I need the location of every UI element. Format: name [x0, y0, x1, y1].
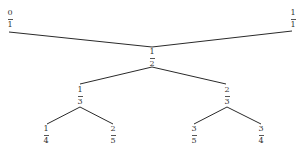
numerator: 3 — [184, 125, 204, 133]
denominator: 5 — [103, 137, 123, 145]
node-3-5: 3 5 — [184, 125, 204, 145]
denominator: 1 — [0, 21, 20, 29]
edge-2-3-to-3-4 — [227, 107, 261, 124]
numerator: 2 — [103, 125, 123, 133]
denominator: 4 — [36, 137, 56, 145]
numerator: 1 — [36, 125, 56, 133]
node-1-4: 1 4 — [36, 125, 56, 145]
numerator: 1 — [142, 48, 162, 56]
edge-1-1-to-1-2 — [152, 31, 292, 47]
denominator: 1 — [283, 21, 303, 29]
edge-2-3-to-3-5 — [194, 107, 227, 124]
edge-1-3-to-1-4 — [47, 107, 80, 124]
numerator: 2 — [217, 86, 237, 94]
node-3-4: 3 4 — [251, 125, 271, 145]
edge-1-2-to-2-3 — [152, 67, 226, 84]
numerator: 1 — [70, 86, 90, 94]
numerator: 0 — [0, 9, 20, 17]
edge-1-2-to-1-3 — [80, 67, 152, 84]
numerator: 1 — [283, 9, 303, 17]
node-0-1: 0 1 — [0, 9, 20, 29]
node-2-5: 2 5 — [103, 125, 123, 145]
denominator: 4 — [251, 137, 271, 145]
denominator: 2 — [142, 60, 162, 68]
denominator: 3 — [217, 98, 237, 106]
node-1-1: 1 1 — [283, 9, 303, 29]
edge-0-1-to-1-2 — [9, 32, 152, 47]
numerator: 3 — [251, 125, 271, 133]
node-1-2: 1 2 — [142, 48, 162, 68]
denominator: 3 — [70, 98, 90, 106]
denominator: 5 — [184, 137, 204, 145]
node-2-3: 2 3 — [217, 86, 237, 106]
node-1-3: 1 3 — [70, 86, 90, 106]
edge-1-3-to-2-5 — [80, 107, 113, 124]
